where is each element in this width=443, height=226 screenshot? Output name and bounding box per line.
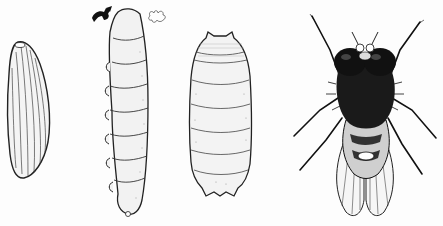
- spiracle-detail: [149, 11, 166, 23]
- egg-figure: [4, 38, 54, 180]
- adult-fly-figure: [290, 10, 440, 220]
- mouth-hooks: [92, 8, 110, 22]
- illustration-canvas: [0, 0, 443, 226]
- larva-figure: [88, 2, 188, 220]
- pupa-figure: [186, 30, 256, 200]
